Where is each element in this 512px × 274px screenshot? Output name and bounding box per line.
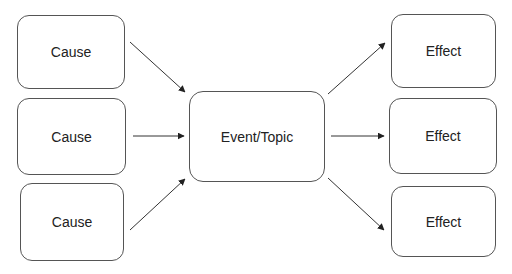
arrow-cause-1-to-event xyxy=(130,42,185,92)
cause-box-3: Cause xyxy=(20,183,124,261)
effect-label: Effect xyxy=(426,43,462,59)
effect-label: Effect xyxy=(426,214,462,230)
effect-label: Effect xyxy=(425,128,461,144)
arrow-cause-3-to-event xyxy=(130,179,185,230)
event-topic-box: Event/Topic xyxy=(189,91,325,182)
cause-label: Cause xyxy=(51,44,91,60)
event-topic-label: Event/Topic xyxy=(221,129,293,145)
arrow-event-to-effect-1 xyxy=(328,43,385,94)
cause-label: Cause xyxy=(52,214,92,230)
arrow-event-to-effect-3 xyxy=(328,178,384,230)
effect-box-2: Effect xyxy=(389,98,497,174)
cause-effect-diagram: Cause Cause Cause Event/Topic Effect Eff… xyxy=(0,0,512,274)
cause-label: Cause xyxy=(51,129,91,145)
cause-box-1: Cause xyxy=(17,15,125,89)
effect-box-1: Effect xyxy=(391,14,496,88)
cause-box-2: Cause xyxy=(17,98,126,175)
effect-box-3: Effect xyxy=(391,186,496,257)
